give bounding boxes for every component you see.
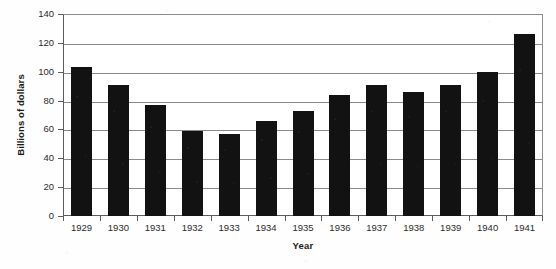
bar: [293, 111, 314, 216]
x-axis-tick-label: 1939: [432, 221, 469, 234]
x-axis-tick-label: 1929: [63, 221, 100, 234]
bars-group: [63, 14, 543, 216]
bar: [108, 85, 129, 216]
x-axis-tick-label: 1930: [100, 221, 137, 234]
x-axis-tick-label: 1937: [358, 221, 395, 234]
bar: [329, 95, 350, 216]
bar: [71, 67, 92, 216]
x-axis-tick-labels: 1929193019311932193319341935193619371938…: [63, 221, 543, 235]
y-axis-tick-label: 20: [24, 182, 58, 192]
bar: [477, 72, 498, 216]
y-axis-tick-label: 60: [24, 125, 58, 135]
x-axis-tick-label: 1936: [321, 221, 358, 234]
y-axis-tick-label: 80: [24, 96, 58, 106]
x-axis-tick-label: 1931: [137, 221, 174, 234]
y-axis-tick-label: 100: [24, 67, 58, 77]
x-axis-tick-label: 1940: [469, 221, 506, 234]
y-axis-tick-label: 0: [24, 211, 58, 221]
x-axis-tick-label: 1933: [211, 221, 248, 234]
x-axis-title: Year: [63, 240, 543, 251]
y-axis-tick-label: 40: [24, 154, 58, 164]
bar: [366, 85, 387, 216]
y-axis-tick-label: 140: [24, 9, 58, 19]
bar: [219, 134, 240, 216]
bar: [514, 34, 535, 216]
bar: [403, 92, 424, 216]
x-axis-tick-label: 1938: [395, 221, 432, 234]
y-axis-tick-labels: 020406080100120140: [24, 0, 58, 269]
x-axis-tick-label: 1935: [285, 221, 322, 234]
bar: [182, 131, 203, 216]
bar: [256, 121, 277, 216]
bar: [440, 85, 461, 216]
x-axis-tick-label: 1932: [174, 221, 211, 234]
bar: [145, 105, 166, 216]
y-axis-tick-label: 120: [24, 38, 58, 48]
x-axis-tick-label: 1941: [506, 221, 543, 234]
x-axis-tick-label: 1934: [248, 221, 285, 234]
bar-chart-figure: Billions of dollars 020406080100120140 1…: [0, 0, 556, 269]
